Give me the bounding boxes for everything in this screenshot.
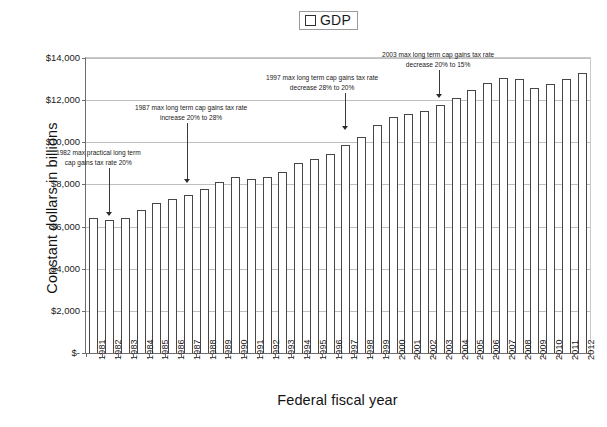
bar-slot <box>385 58 401 353</box>
bar[interactable] <box>483 83 492 353</box>
bar[interactable] <box>546 84 555 353</box>
x-tick-mark <box>574 353 575 357</box>
x-tick-mark <box>401 353 402 357</box>
annotation-arrow-head <box>106 212 112 216</box>
x-tick-mark <box>275 353 276 357</box>
chart-legend: GDP <box>299 11 358 30</box>
bar-slot <box>86 58 102 353</box>
annotation-line: 1997 max long term cap gains tax rate <box>266 73 378 83</box>
bar[interactable] <box>373 125 382 353</box>
x-tick-mark <box>322 353 323 357</box>
bar-slot <box>527 58 543 353</box>
x-tick-mark <box>212 353 213 357</box>
y-tick-label: $8,000 <box>12 178 80 189</box>
bar[interactable] <box>152 203 161 353</box>
bar[interactable] <box>168 199 177 353</box>
bar[interactable] <box>200 189 209 353</box>
bar[interactable] <box>467 90 476 353</box>
bar[interactable] <box>341 145 350 353</box>
bar-slot <box>559 58 575 353</box>
bar[interactable] <box>452 98 461 353</box>
annotation-arrow-head <box>184 179 190 183</box>
x-tick-mark <box>338 353 339 357</box>
bar-slot <box>417 58 433 353</box>
bar-slot <box>291 58 307 353</box>
bar[interactable] <box>357 137 366 353</box>
bar[interactable] <box>420 111 429 353</box>
bar-slot <box>370 58 386 353</box>
bar[interactable] <box>184 195 193 353</box>
x-tick-mark <box>118 353 119 357</box>
x-tick-mark <box>244 353 245 357</box>
x-tick-mark <box>385 353 386 357</box>
bar[interactable] <box>562 79 571 353</box>
bar-slot <box>259 58 275 353</box>
annotation-arrow-shaft <box>439 70 440 94</box>
bar[interactable] <box>499 78 508 353</box>
x-tick-mark <box>496 353 497 357</box>
annotation-text: 1997 max long term cap gains tax ratedec… <box>266 73 378 92</box>
bar-slot <box>448 58 464 353</box>
bar-slot <box>275 58 291 353</box>
bar-slot <box>118 58 134 353</box>
legend-label-gdp: GDP <box>320 13 351 27</box>
y-tick-label: $4,000 <box>12 263 80 274</box>
annotation-arrow-head <box>436 94 442 98</box>
bar[interactable] <box>89 218 98 353</box>
x-tick-mark <box>543 353 544 357</box>
bar[interactable] <box>326 154 335 353</box>
bar[interactable] <box>530 88 539 354</box>
annotation-arrow-head <box>342 126 348 130</box>
bar[interactable] <box>436 105 445 353</box>
bar[interactable] <box>278 172 287 353</box>
y-tick-label: $12,000 <box>12 94 80 105</box>
x-tick-mark <box>433 353 434 357</box>
bar[interactable] <box>137 210 146 353</box>
bar[interactable] <box>247 179 256 353</box>
x-tick-mark <box>511 353 512 357</box>
legend-swatch-gdp <box>305 15 316 26</box>
x-tick-mark <box>102 353 103 357</box>
bar[interactable] <box>578 73 587 353</box>
bar[interactable] <box>231 177 240 353</box>
x-tick-mark <box>196 353 197 357</box>
x-tick-mark <box>464 353 465 357</box>
bar[interactable] <box>215 182 224 353</box>
x-tick-mark <box>259 353 260 357</box>
plot-area: $14,000$12,000$10,000$8,000$6,000$4,000$… <box>85 57 591 354</box>
bar[interactable] <box>105 220 114 353</box>
x-tick-mark <box>86 353 87 357</box>
bar-slot <box>511 58 527 353</box>
x-tick-mark <box>149 353 150 357</box>
annotation-line: increase 20% to 28% <box>135 113 247 123</box>
x-tick-mark <box>228 353 229 357</box>
bar[interactable] <box>389 117 398 353</box>
bar[interactable] <box>515 79 524 353</box>
bar[interactable] <box>294 163 303 353</box>
y-tick-label: $10,000 <box>12 136 80 147</box>
x-tick-mark <box>417 353 418 357</box>
x-tick-mark <box>354 353 355 357</box>
x-tick-mark <box>448 353 449 357</box>
x-tick-mark <box>307 353 308 357</box>
bar[interactable] <box>404 114 413 353</box>
annotation-text: 2003 max long term cap gains tax ratedec… <box>382 50 494 69</box>
x-tick-mark <box>370 353 371 357</box>
y-tick-label: $6,000 <box>12 221 80 232</box>
bar-slot <box>574 58 590 353</box>
bar-slot <box>543 58 559 353</box>
annotation-line: decrease 20% to 15% <box>382 60 494 70</box>
x-axis-title: Federal fiscal year <box>85 392 590 408</box>
bar[interactable] <box>263 177 272 353</box>
x-tick-mark <box>480 353 481 357</box>
x-tick-mark <box>527 353 528 357</box>
bar[interactable] <box>310 159 319 353</box>
bar-slot <box>464 58 480 353</box>
bar-slot <box>433 58 449 353</box>
bar-slot <box>307 58 323 353</box>
bar-slot <box>338 58 354 353</box>
annotation-arrow-shaft <box>109 168 110 212</box>
y-tick-label: $2,000 <box>12 305 80 316</box>
bar-slot <box>322 58 338 353</box>
bar[interactable] <box>121 218 130 353</box>
